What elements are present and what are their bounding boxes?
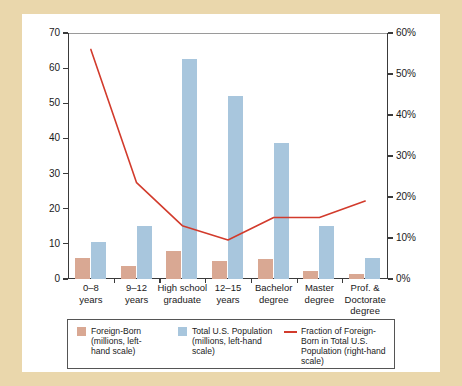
x-category-label-line: degree xyxy=(337,305,394,317)
total-population-swatch xyxy=(178,327,187,336)
legend-item-foreign-born: Foreign-Born(millions, left-hand scale) xyxy=(77,326,169,356)
legend-label-line: scale) xyxy=(301,356,386,366)
figure-panel: 010203040506070 0%10%20%30%40%50%60% 0–8… xyxy=(22,14,440,372)
y-tick-label-left: 40 xyxy=(49,133,60,143)
legend-label-fraction: Fraction of Foreign-Born in Total U.S.Po… xyxy=(301,326,386,366)
legend-item-total-population: Total U.S. Population(millions, left-han… xyxy=(178,326,282,356)
legend-item-fraction: Fraction of Foreign-Born in Total U.S.Po… xyxy=(284,326,392,366)
y-tick-label-left: 10 xyxy=(49,239,60,249)
x-category-label: Prof. &Doctoratedegree xyxy=(337,282,394,317)
y-tick-right xyxy=(388,32,393,33)
chart-plot-area: 010203040506070 0%10%20%30%40%50%60% xyxy=(68,33,388,279)
fraction-line-series xyxy=(68,33,388,279)
fraction-line-swatch xyxy=(284,327,297,336)
y-tick-label-left: 30 xyxy=(49,169,60,179)
y-tick-label-left: 70 xyxy=(49,28,60,38)
x-category-label-line: Prof. & xyxy=(337,282,394,294)
y-tick-right xyxy=(388,196,393,197)
y-tick-right xyxy=(388,155,393,156)
y-tick-label-right: 20% xyxy=(396,192,416,202)
legend-label-foreign-born: Foreign-Born(millions, left-hand scale) xyxy=(91,326,142,356)
y-tick-label-left: 20 xyxy=(49,204,60,214)
y-tick-label-right: 0% xyxy=(396,274,410,284)
y-tick-label-left: 50 xyxy=(49,98,60,108)
legend-label-line: Fraction of Foreign- xyxy=(301,326,386,336)
legend-label-line: Total U.S. Population xyxy=(192,326,272,336)
y-tick-label-right: 60% xyxy=(396,28,416,38)
y-tick-label-left: 60 xyxy=(49,63,60,73)
legend-label-line: (millions, left- xyxy=(91,336,142,346)
legend-label-line: (millions, left-hand xyxy=(192,336,272,346)
y-tick-label-right: 40% xyxy=(396,110,416,120)
x-category-label-line: Doctorate xyxy=(337,294,394,306)
y-tick-right xyxy=(388,237,393,238)
legend-label-line: hand scale) xyxy=(91,346,142,356)
y-tick-label-right: 10% xyxy=(396,233,416,243)
chart-legend: Foreign-Born(millions, left-hand scale) … xyxy=(67,319,395,369)
legend-label-line: Population (right-hand xyxy=(301,346,386,356)
plot-inner: 010203040506070 0%10%20%30%40%50%60% xyxy=(68,33,388,279)
fraction-line-path xyxy=(91,49,365,240)
y-tick-label-left: 0 xyxy=(54,274,60,284)
foreign-born-swatch xyxy=(77,327,86,336)
y-tick-right xyxy=(388,73,393,74)
y-tick-right xyxy=(388,114,393,115)
y-tick-label-right: 30% xyxy=(396,151,416,161)
y-tick-right xyxy=(388,278,393,279)
y-tick-label-right: 50% xyxy=(396,69,416,79)
legend-label-line: scale) xyxy=(192,346,272,356)
legend-label-total-population: Total U.S. Population(millions, left-han… xyxy=(192,326,272,356)
legend-label-line: Foreign-Born xyxy=(91,326,142,336)
legend-label-line: Born in Total U.S. xyxy=(301,336,386,346)
